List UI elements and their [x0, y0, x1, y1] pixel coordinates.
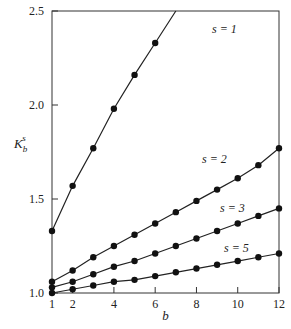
- x-tick-label: 2: [70, 297, 76, 311]
- data-point: [111, 243, 117, 249]
- x-tick-label: 1: [49, 297, 55, 311]
- data-point: [214, 262, 220, 268]
- data-point: [111, 106, 117, 112]
- data-point: [131, 232, 137, 238]
- data-point: [152, 40, 158, 46]
- data-point: [90, 254, 96, 260]
- data-point: [193, 198, 199, 204]
- data-point: [152, 273, 158, 279]
- data-point: [49, 228, 55, 234]
- data-point: [214, 228, 220, 234]
- data-point: [276, 145, 282, 151]
- data-point: [193, 265, 199, 271]
- data-point: [131, 258, 137, 264]
- data-point: [235, 258, 241, 264]
- data-point: [255, 213, 261, 219]
- data-point: [173, 209, 179, 215]
- series-label: s = 1: [212, 22, 237, 36]
- data-point: [255, 254, 261, 260]
- y-tick-label: 2.5: [29, 4, 44, 18]
- data-point: [235, 220, 241, 226]
- x-tick-label: 6: [152, 297, 158, 311]
- data-point: [152, 220, 158, 226]
- chart: 1.01.52.02.5124681012bKbs s = 1s = 2s = …: [0, 0, 291, 329]
- series-label: s = 5: [224, 241, 249, 255]
- data-point: [69, 183, 75, 189]
- y-tick-label: 1.5: [29, 192, 44, 206]
- data-point: [69, 267, 75, 273]
- x-tick-label: 8: [193, 297, 199, 311]
- data-point: [49, 290, 55, 296]
- data-point: [131, 72, 137, 78]
- data-point: [131, 277, 137, 283]
- series-label: s = 3: [220, 201, 245, 215]
- data-point: [276, 205, 282, 211]
- y-tick-label: 1.0: [29, 286, 44, 300]
- series-line: [52, 254, 279, 293]
- data-point: [69, 279, 75, 285]
- data-point: [49, 279, 55, 285]
- x-axis-label: b: [162, 308, 169, 323]
- series-label: s = 2: [202, 152, 227, 166]
- data-point: [214, 186, 220, 192]
- data-point: [69, 286, 75, 292]
- x-tick-label: 10: [232, 297, 244, 311]
- data-point: [49, 284, 55, 290]
- x-tick-label: 12: [273, 297, 285, 311]
- labels-group: s = 1s = 2s = 3s = 5: [202, 22, 249, 255]
- y-axis-label: Kbs: [13, 133, 28, 154]
- data-point: [111, 279, 117, 285]
- data-point: [173, 269, 179, 275]
- data-point: [276, 250, 282, 256]
- data-point: [193, 235, 199, 241]
- data-point: [90, 282, 96, 288]
- data-point: [173, 243, 179, 249]
- data-point: [152, 250, 158, 256]
- series-line: [52, 148, 279, 281]
- y-tick-label: 2.0: [29, 98, 44, 112]
- data-point: [255, 162, 261, 168]
- data-point: [235, 175, 241, 181]
- data-point: [90, 271, 96, 277]
- data-point: [111, 263, 117, 269]
- x-tick-label: 4: [111, 297, 117, 311]
- data-point: [90, 145, 96, 151]
